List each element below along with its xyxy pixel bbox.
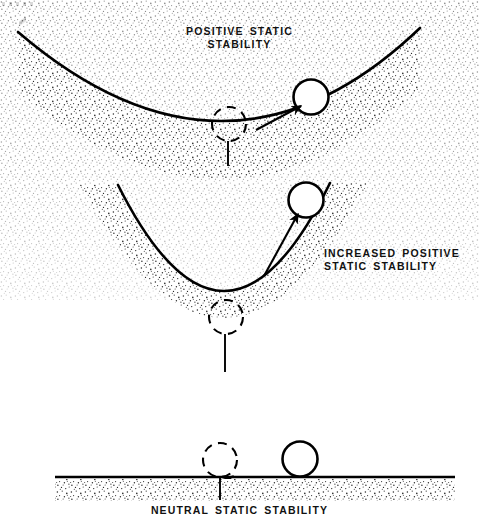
ground-stipple-middle xyxy=(0,150,479,470)
displaced-ball-top xyxy=(294,80,329,115)
caption-positive-static-stability: POSITIVE STATIC STABILITY xyxy=(0,25,479,51)
caption-neutral-static-stability: NEUTRAL STATIC STABILITY xyxy=(0,504,479,517)
figure-page: POSITIVE STATIC STABILITY INCREASED POSI… xyxy=(0,0,479,528)
panel-increased-positive-static-stability xyxy=(0,150,479,470)
displaced-ball-middle xyxy=(289,183,324,218)
displaced-ball-bottom xyxy=(283,442,318,477)
caption-increased-positive-static-stability: INCREASED POSITIVE STATIC STABILITY xyxy=(324,247,479,273)
